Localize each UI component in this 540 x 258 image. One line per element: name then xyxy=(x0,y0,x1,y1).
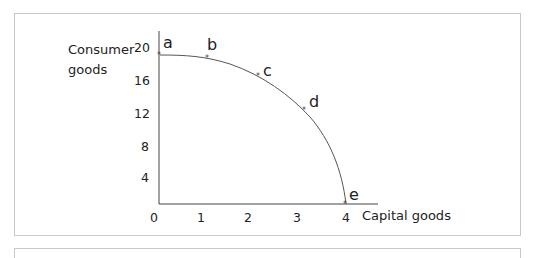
marker-e: * xyxy=(343,200,347,209)
y-axis-label-line2: goods xyxy=(68,62,107,77)
point-label-b: b xyxy=(207,35,217,54)
y-tick-12: 12 xyxy=(134,106,150,121)
x-axis-label: Capital goods xyxy=(362,208,451,223)
y-tick-8: 8 xyxy=(141,139,149,154)
x-tick-1: 1 xyxy=(197,210,205,225)
x-tick-3: 3 xyxy=(293,210,301,225)
marker-c: * xyxy=(256,72,260,81)
ppf-curve xyxy=(160,55,346,204)
y-tick-4: 4 xyxy=(141,170,149,185)
y-tick-16: 16 xyxy=(134,73,150,88)
marker-a: * xyxy=(157,51,161,60)
x-tick-2: 2 xyxy=(244,210,252,225)
point-label-c: c xyxy=(263,61,272,80)
point-label-e: e xyxy=(349,185,359,204)
y-tick-20: 20 xyxy=(134,40,150,55)
marker-d: * xyxy=(302,106,306,115)
point-label-d: d xyxy=(309,92,319,111)
point-label-a: a xyxy=(163,33,173,52)
y-axis-label-line1: Consumer xyxy=(68,42,134,57)
x-tick-4: 4 xyxy=(342,210,350,225)
curve-markers: * * * * * xyxy=(157,51,347,209)
x-tick-0: 0 xyxy=(150,210,158,225)
marker-b: * xyxy=(205,54,209,63)
